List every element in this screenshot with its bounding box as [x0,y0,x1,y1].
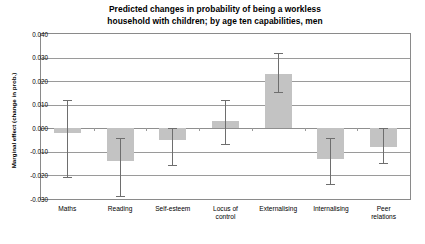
x-axis-label-line: Locus of [199,205,252,213]
error-bar-stem [225,100,226,145]
gridline-0.030 [41,58,410,59]
x-axis-tickmark [252,128,253,131]
error-bar-internalising [325,138,337,185]
error-bar-stem [383,128,384,163]
error-bar-maths [61,100,73,178]
x-axis-label-peer-relations: Peerrelations [357,205,410,221]
x-axis-label-locus-of-control: Locus ofcontrol [199,205,252,221]
x-axis-tickmark [94,128,95,131]
y-axis-tick-label: 0.000 [8,125,48,132]
x-axis-label-externalising: Externalising [252,205,305,213]
x-axis-label-self-esteem: Self-esteem [146,205,199,213]
error-bar-stem [278,53,279,93]
chart-container: Predicted changes in probability of bein… [0,0,425,244]
y-axis-tick-label: -0.010 [8,148,48,155]
y-axis-tick-label: 0.030 [8,54,48,61]
error-bar-self-esteem [167,128,179,166]
x-axis-label-line: relations [357,213,410,221]
y-axis-tick-label: 0.020 [8,78,48,85]
y-axis-tick-label: -0.030 [8,196,48,203]
chart-title-line-1: Predicted changes in probability of bein… [60,4,370,16]
error-bar-cap-bottom [274,92,283,93]
x-axis-label-line: control [199,213,252,221]
x-axis-label-reading: Reading [94,205,147,213]
error-bar-stem [67,100,68,178]
x-axis-tickmark [357,128,358,131]
x-axis-tickmark [146,128,147,131]
x-axis-label-line: Internalising [305,205,358,213]
gridline--0.020 [41,175,410,176]
x-axis-label-line: Self-esteem [146,205,199,213]
x-axis-tickmark [199,128,200,131]
plot-area [40,33,411,200]
y-axis-tick-label: -0.020 [8,172,48,179]
x-axis-label-line: Reading [94,205,147,213]
error-bar-cap-bottom [168,165,177,166]
x-axis-label-line: Peer [357,205,410,213]
error-bar-externalising [272,53,284,93]
error-bar-stem [330,138,331,185]
y-axis-tick-label: 0.010 [8,101,48,108]
x-axis-tickmark [305,128,306,131]
y-axis-title: Marginal effect (change in prob.) [10,51,17,191]
error-bar-peer-relations [378,128,390,163]
chart-title-line-2: household with children; by age ten capa… [60,16,370,28]
x-axis-label-maths: Maths [41,205,94,213]
error-bar-stem [120,138,121,197]
x-axis-label-line: Maths [41,205,94,213]
error-bar-cap-bottom [379,163,388,164]
error-bar-locus-of-control [220,100,232,145]
error-bar-reading [114,138,126,197]
error-bar-cap-bottom [116,196,125,197]
gridline--0.010 [41,152,410,153]
gridline-0.020 [41,81,410,82]
chart-title: Predicted changes in probability of bein… [60,4,370,27]
error-bar-stem [172,128,173,166]
x-axis-label-line: Externalising [252,205,305,213]
error-bar-cap-bottom [326,184,335,185]
error-bar-cap-bottom [221,144,230,145]
x-axis-label-internalising: Internalising [305,205,358,213]
error-bar-cap-bottom [63,177,72,178]
y-axis-tick-label: 0.040 [8,31,48,38]
